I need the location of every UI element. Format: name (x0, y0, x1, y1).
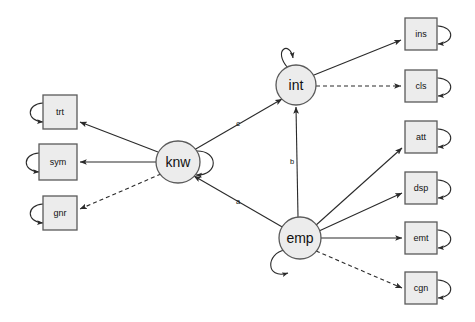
path-label-group: c b a (236, 119, 294, 206)
loop-cgn-icon (438, 280, 451, 298)
loop-att-icon (438, 129, 451, 147)
node-att-label: att (416, 132, 427, 142)
loop-dsp-icon (438, 180, 451, 198)
path-label-c: c (236, 119, 240, 128)
node-sym-label: sym (50, 157, 67, 167)
node-knw[interactable]: knw (156, 141, 200, 183)
edge-group (80, 40, 402, 288)
node-ins-label: ins (415, 29, 427, 39)
edge-knw-gnr (80, 174, 161, 209)
node-cls-label: cls (416, 81, 427, 91)
node-att[interactable]: att (405, 121, 437, 153)
node-cls[interactable]: cls (405, 70, 437, 102)
node-sym[interactable]: sym (39, 144, 77, 180)
node-trt[interactable]: trt (43, 95, 77, 129)
node-ins[interactable]: ins (405, 18, 437, 50)
node-emp[interactable]: emp (279, 217, 321, 259)
loop-gnr-icon (30, 204, 43, 223)
node-gnr-label: gnr (53, 208, 66, 218)
loop-cls-icon (438, 78, 451, 96)
loop-sym-icon (26, 153, 39, 172)
edge-knw-trt (80, 122, 158, 152)
node-cgn[interactable]: cgn (405, 272, 437, 304)
diagram-canvas: trt sym gnr knw int emp ins cls att (0, 0, 475, 322)
edge-emp-att (315, 148, 402, 226)
path-label-a: a (236, 197, 241, 206)
node-dsp-label: dsp (414, 183, 429, 193)
loop-emt-icon (438, 230, 451, 248)
path-label-b: b (290, 157, 294, 166)
node-trt-label: trt (56, 107, 64, 117)
edge-emp-int (296, 107, 298, 217)
node-cgn-label: cgn (414, 283, 429, 293)
node-int[interactable]: int (276, 65, 316, 105)
node-dsp[interactable]: dsp (405, 172, 437, 204)
edge-emp-cgn (316, 251, 402, 288)
loop-trt-icon (30, 103, 43, 122)
node-emt-label: emt (413, 233, 429, 243)
node-knw-label: knw (166, 154, 192, 170)
node-emt[interactable]: emt (405, 222, 437, 254)
node-int-label: int (289, 77, 304, 93)
sem-path-diagram: trt sym gnr knw int emp ins cls att (0, 0, 475, 322)
edge-emp-dsp (319, 193, 402, 231)
node-gnr[interactable]: gnr (43, 196, 77, 230)
edge-int-ins (314, 40, 401, 75)
node-emp-label: emp (286, 230, 313, 246)
loop-ins-icon (438, 26, 451, 44)
